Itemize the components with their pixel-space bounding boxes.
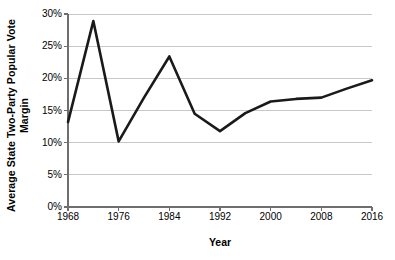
- y-axis-title: Average State Two-Party Popular Vote Mar…: [5, 11, 30, 221]
- x-tick-label: 2008: [295, 212, 347, 222]
- y-axis-title-line-2: Margin: [17, 11, 30, 221]
- x-tick-label: 2016: [346, 212, 395, 222]
- x-axis-tick-labels: 1968197619841992200020082016: [0, 0, 395, 260]
- y-axis-title-line-1: Average State Two-Party Popular Vote: [5, 11, 18, 221]
- x-tick-label: 1984: [143, 212, 195, 222]
- x-axis-title: Year: [68, 236, 372, 248]
- x-tick-label: 1968: [42, 212, 94, 222]
- x-tick-label: 2000: [245, 212, 297, 222]
- x-tick-label: 1976: [93, 212, 145, 222]
- x-tick-label: 1992: [194, 212, 246, 222]
- chart-figure: 0%5%10%15%20%25%30% 19681976198419922000…: [0, 0, 395, 260]
